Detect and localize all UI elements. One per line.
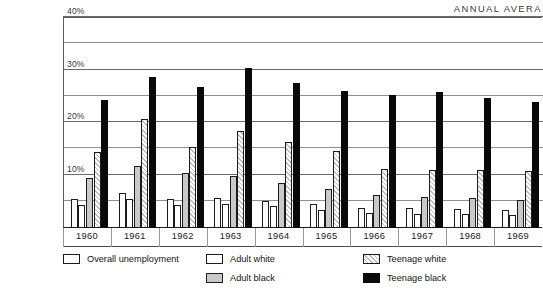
bar-group-1963 xyxy=(208,18,256,228)
legend-swatch-adult_black xyxy=(206,273,223,283)
legend-item-adult_black[interactable]: Adult black xyxy=(206,273,275,283)
bar-1962-teenblack xyxy=(197,87,204,228)
bar-1966-adultwhite xyxy=(366,213,373,228)
bar-1962-teenwhite xyxy=(189,147,196,228)
legend-item-teen_white[interactable]: Teenage white xyxy=(363,254,446,264)
legend-swatch-teen_white xyxy=(363,254,380,264)
legend-swatch-overall xyxy=(63,254,80,264)
figure-caption-title: unem- lt and nd ited 0 to xyxy=(0,4,60,72)
bar-1967-teenwhite xyxy=(429,170,436,228)
bar-group-1960 xyxy=(64,18,112,228)
bar-1961-overall xyxy=(119,193,126,228)
chart-title: ANNUAL AVERA xyxy=(454,3,542,14)
bar-group-1968 xyxy=(447,18,495,228)
bar-1968-adultwhite xyxy=(462,214,469,228)
x-tick-label-1965: 1965 xyxy=(303,231,351,241)
bar-1961-teenblack xyxy=(149,77,156,228)
bar-1967-teenblack xyxy=(436,92,443,229)
bar-1963-adultblack xyxy=(230,176,237,228)
figure-source-note: , June 29, 80 by The xyxy=(0,99,60,118)
bar-1963-overall xyxy=(214,198,221,228)
bar-group-1961 xyxy=(112,18,160,228)
x-axis: 1960196119621963196419651966196719681969 xyxy=(63,228,542,247)
bar-1965-overall xyxy=(310,204,317,228)
bar-1963-teenwhite xyxy=(237,131,244,228)
chart-legend: Overall unemploymentAdult whiteAdult bla… xyxy=(63,254,542,290)
bar-1964-adultblack xyxy=(278,183,285,228)
bar-1964-teenwhite xyxy=(285,142,292,228)
legend-item-teen_black[interactable]: Teenage black xyxy=(363,273,446,283)
bar-1968-overall xyxy=(454,209,461,228)
y-tick-label-40: 40% xyxy=(67,6,85,16)
legend-label-adult_black: Adult black xyxy=(230,273,275,283)
x-tick-label-1968: 1968 xyxy=(446,231,494,241)
x-tick-label-1967: 1967 xyxy=(398,231,446,241)
legend-swatch-teen_black xyxy=(363,273,380,283)
bar-group-1969 xyxy=(495,18,543,228)
bar-1969-teenwhite xyxy=(525,171,532,228)
bar-1968-adultblack xyxy=(469,198,476,228)
bar-1964-teenblack xyxy=(293,83,300,228)
bar-1960-teenwhite xyxy=(94,152,101,228)
bar-1965-adultblack xyxy=(325,189,332,228)
bar-1960-adultwhite xyxy=(78,205,85,228)
bar-1963-adultwhite xyxy=(222,204,229,228)
bar-group-1964 xyxy=(256,18,304,228)
bar-1966-overall xyxy=(358,208,365,228)
bar-group-1965 xyxy=(304,18,352,228)
legend-label-teen_black: Teenage black xyxy=(387,273,446,283)
x-tick-label-1966: 1966 xyxy=(350,231,398,241)
bar-1960-overall xyxy=(71,199,78,228)
x-tick-label-1960: 1960 xyxy=(63,231,111,241)
bar-1969-adultblack xyxy=(517,200,524,228)
bar-1962-adultwhite xyxy=(174,205,181,228)
bar-1963-teenblack xyxy=(245,68,252,228)
gridline-40 xyxy=(64,16,543,17)
bar-groups xyxy=(64,18,543,228)
bar-1962-adultblack xyxy=(182,173,189,228)
bar-1965-adultwhite xyxy=(318,210,325,228)
bar-1960-adultblack xyxy=(86,178,93,228)
bar-group-1967 xyxy=(399,18,447,228)
x-tick-label-1961: 1961 xyxy=(111,231,159,241)
bar-1964-overall xyxy=(262,201,269,228)
bar-1965-teenblack xyxy=(341,91,348,228)
legend-item-adult_white[interactable]: Adult white xyxy=(206,254,275,264)
bar-1967-overall xyxy=(406,208,413,228)
bar-1969-teenblack xyxy=(532,102,539,228)
caption-column: unem- lt and nd ited 0 to , June 29, 80 … xyxy=(0,0,60,291)
x-tick-label-1963: 1963 xyxy=(207,231,255,241)
legend-item-overall[interactable]: Overall unemployment xyxy=(63,254,179,264)
plot-area: 10%20%30%40% xyxy=(63,17,542,228)
bar-group-1966 xyxy=(351,18,399,228)
bar-1965-teenwhite xyxy=(333,151,340,228)
bar-1967-adultwhite xyxy=(414,214,421,228)
bar-1961-teenwhite xyxy=(141,119,148,228)
bar-1962-overall xyxy=(167,199,174,228)
legend-label-overall: Overall unemployment xyxy=(87,254,179,264)
bar-1966-teenblack xyxy=(389,95,396,228)
bar-1966-teenwhite xyxy=(381,169,388,228)
bar-1969-adultwhite xyxy=(509,215,516,228)
bar-1961-adultwhite xyxy=(126,199,133,228)
legend-label-teen_white: Teenage white xyxy=(387,254,446,264)
x-tick-label-1964: 1964 xyxy=(255,231,303,241)
bar-group-1962 xyxy=(160,18,208,228)
bar-1961-adultblack xyxy=(134,166,141,228)
legend-swatch-adult_white xyxy=(206,254,223,264)
bar-1966-adultblack xyxy=(373,195,380,228)
bar-1960-teenblack xyxy=(101,100,108,228)
x-tick-label-1962: 1962 xyxy=(159,231,207,241)
bar-1964-adultwhite xyxy=(270,206,277,228)
bar-1967-adultblack xyxy=(421,197,428,229)
legend-label-adult_white: Adult white xyxy=(230,254,275,264)
bar-1968-teenwhite xyxy=(477,170,484,228)
x-tick-label-1969: 1969 xyxy=(494,231,542,241)
bar-1969-overall xyxy=(502,210,509,228)
bar-1968-teenblack xyxy=(484,98,491,228)
